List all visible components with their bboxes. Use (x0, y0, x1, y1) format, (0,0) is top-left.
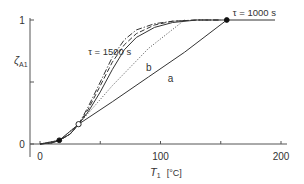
x-tick-label: 200 (273, 151, 290, 162)
y-axis-label: ζA1 (14, 54, 28, 68)
chart: 010100200ζA1T1[°C]τ = 1500 sτ = 1000 sba (0, 0, 304, 184)
annotation-label: τ = 1000 s (233, 7, 276, 18)
filled-marker (224, 18, 229, 23)
annotation-label: b (146, 62, 152, 73)
x-tick-label: 100 (152, 151, 169, 162)
annotation-label: τ = 1500 s (88, 46, 131, 57)
y-tick-label: 0 (19, 139, 25, 150)
annotation-label: a (168, 73, 174, 84)
labels-group: 010100200ζA1T1[°C]τ = 1500 sτ = 1000 sba (14, 7, 290, 179)
series-line (40, 20, 275, 144)
axes (30, 18, 287, 157)
open-marker (76, 122, 81, 127)
series-line (40, 20, 185, 144)
x-axis-label: T1[°C] (150, 166, 182, 179)
series-line (40, 20, 221, 144)
series-group (40, 20, 275, 144)
x-tick-label: 0 (37, 151, 43, 162)
series-line (40, 20, 227, 144)
filled-marker (57, 138, 62, 143)
y-tick-label: 1 (19, 15, 25, 26)
